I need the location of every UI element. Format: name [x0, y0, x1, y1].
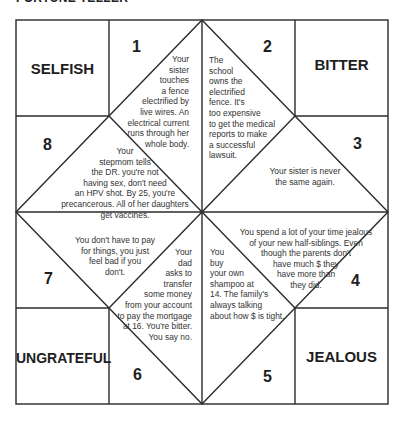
fortune-text-3: Your sister is never the same again.	[245, 166, 365, 187]
flap-number-5: 5	[263, 368, 272, 386]
flap-number-7: 7	[44, 270, 53, 288]
fortune-text-5: You buy your own shampoo at 14. The fami…	[210, 247, 285, 321]
corner-label-ungrateful: UNGRATEFUL	[16, 350, 109, 366]
fortune-text-1: Your sister touches a fence electrified …	[128, 54, 189, 149]
corner-label-jealous: JEALOUS	[295, 348, 388, 365]
fortune-text-8: Your stepmom tells the DR. you're not ha…	[40, 146, 210, 220]
flap-number-2: 2	[263, 38, 272, 56]
corner-label-bitter: BITTER	[295, 56, 388, 73]
flap-number-6: 6	[133, 366, 142, 384]
corner-label-selfish: SELFISH	[16, 60, 109, 77]
fortune-text-2: The school owns the electrified fence. I…	[209, 55, 275, 161]
fortune-text-7: You don't have to pay for things, you ju…	[55, 235, 175, 277]
flap-number-3: 3	[353, 135, 362, 153]
